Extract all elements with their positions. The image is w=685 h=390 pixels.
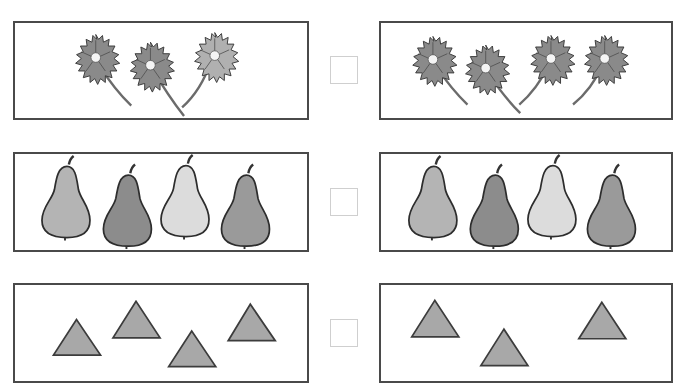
pear-icon — [409, 156, 457, 240]
flower-icon — [573, 35, 629, 104]
flower-icon — [519, 35, 575, 104]
triangle-icon — [113, 301, 160, 337]
triangles-group-3 — [381, 285, 671, 381]
pears-group-4 — [381, 154, 671, 250]
triangle-icon — [579, 302, 626, 338]
pear-icon — [42, 156, 90, 240]
triangle-icon — [228, 304, 275, 340]
pear-icon — [221, 165, 269, 249]
pears-right-panel — [379, 152, 673, 252]
triangles-left-panel — [13, 283, 309, 383]
flower-icon — [76, 35, 132, 106]
pears-left-panel — [13, 152, 309, 252]
flowers-group-3 — [15, 23, 307, 118]
pear-icon — [528, 155, 576, 239]
triangle-icon — [53, 320, 100, 356]
compare-checkbox-flowers[interactable] — [330, 56, 358, 84]
flower-icon — [466, 45, 521, 113]
flowers-left-panel — [13, 21, 309, 120]
flowers-right-panel — [379, 21, 673, 120]
pear-icon — [587, 165, 635, 249]
pear-icon — [161, 155, 209, 239]
compare-checkbox-triangles[interactable] — [330, 319, 358, 347]
pears-group-4 — [15, 154, 307, 250]
flower-icon — [130, 42, 184, 116]
flower-icon — [413, 36, 468, 104]
triangles-right-panel — [379, 283, 673, 383]
pear-icon — [470, 165, 518, 249]
flowers-group-4 — [381, 23, 671, 118]
compare-checkbox-pears[interactable] — [330, 188, 358, 216]
triangles-group-4 — [15, 285, 307, 381]
triangle-icon — [169, 331, 216, 367]
flower-icon — [182, 33, 239, 108]
triangle-icon — [412, 300, 459, 336]
triangle-icon — [481, 329, 528, 365]
pear-icon — [103, 165, 151, 249]
